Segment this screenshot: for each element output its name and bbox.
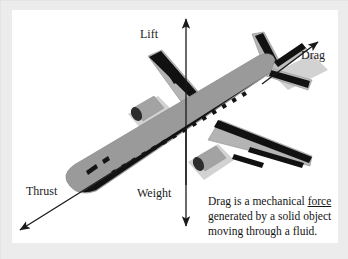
label-thrust: Thrust [26,185,57,197]
label-lift: Lift [140,28,158,40]
figure-stage: Lift Drag Thrust Weight Drag is a mechan… [12,10,338,243]
caption-force-link[interactable]: force [308,195,332,207]
diagram-root: Lift Drag Thrust Weight Drag is a mechan… [0,0,348,259]
caption-line2: generated by a solid object [208,210,331,222]
caption-block: Drag is a mechanical forcegenerated by a… [208,194,336,239]
label-weight: Weight [137,187,171,199]
figure-panel: Lift Drag Thrust Weight Drag is a mechan… [12,10,338,243]
label-drag: Drag [301,49,325,61]
caption-line3: moving through a fluid. [208,225,317,237]
caption-line1-text: Drag is a mechanical [208,195,308,207]
